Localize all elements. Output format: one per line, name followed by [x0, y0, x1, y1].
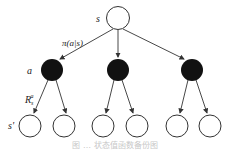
action-label: a	[27, 65, 32, 76]
transition-edges	[34, 80, 207, 113]
policy-edge-label: π(a|s)	[62, 38, 83, 48]
reward-label: Rsa	[24, 93, 34, 106]
next-state-node	[53, 115, 75, 137]
next-state-node	[199, 115, 221, 137]
next-state-node	[19, 115, 41, 137]
action-node	[41, 59, 63, 81]
diagram-canvas: s π(a|s) a Rsa s' 图 … 状态值函数备份图	[0, 0, 231, 151]
backup-diagram: s π(a|s) a Rsa s' 图 … 状态值函数备份图	[0, 0, 231, 151]
root-state-label: s	[96, 13, 100, 24]
action-node	[107, 59, 129, 81]
figure-caption: 图 … 状态值函数备份图	[72, 140, 157, 150]
next-state-node	[92, 115, 114, 137]
root-state-node	[107, 7, 130, 30]
action-node	[181, 59, 203, 81]
next-state-label: s'	[8, 120, 15, 131]
next-state-node	[126, 115, 148, 137]
next-state-node	[166, 115, 188, 137]
